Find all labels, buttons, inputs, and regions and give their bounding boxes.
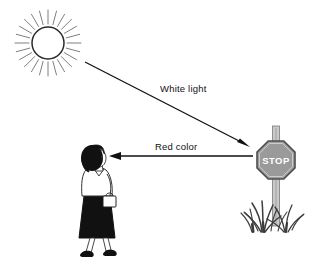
- light-reflection-diagram: White light Red color STOP: [0, 0, 313, 271]
- white-light-label: White light: [160, 83, 207, 94]
- woman-hair-mass: [81, 145, 103, 171]
- stop-sign-text: STOP: [262, 155, 290, 166]
- diagram-canvas: White light Red color STOP: [0, 0, 313, 271]
- woman-handbag: [103, 196, 116, 207]
- woman-eye: [101, 156, 103, 158]
- sun-disc: [32, 27, 64, 59]
- red-color-label: Red color: [155, 141, 197, 152]
- sun-icon: [15, 10, 81, 76]
